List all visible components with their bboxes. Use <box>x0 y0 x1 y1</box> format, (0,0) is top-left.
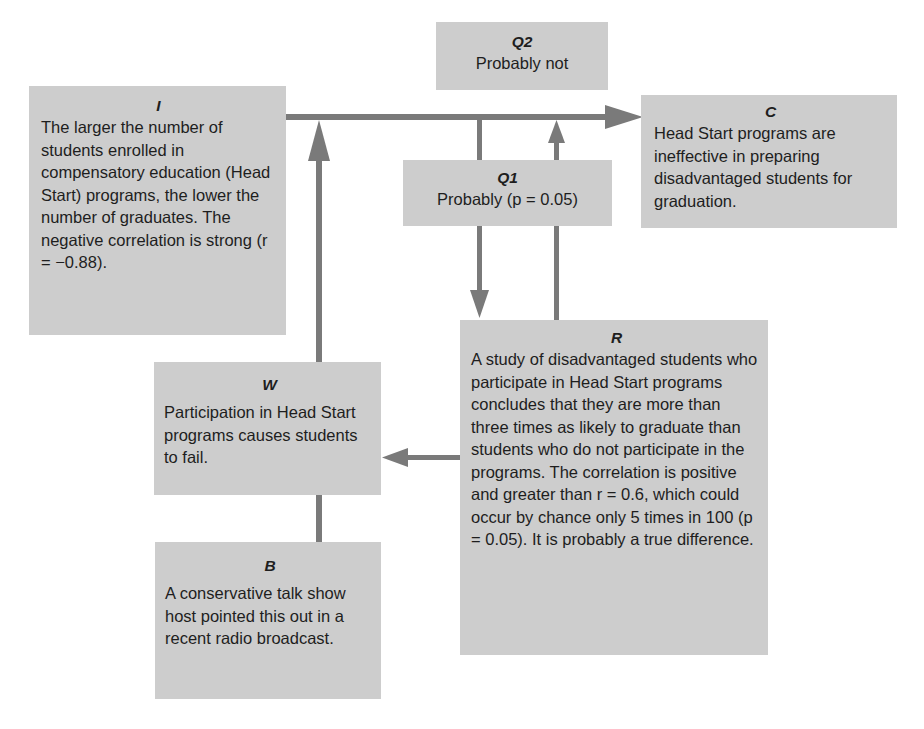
arrowhead-up-r-to-main-icon <box>548 120 565 143</box>
arrowhead-up-to-main-icon <box>308 120 330 161</box>
node-q1-text: Probably (p = 0.05) <box>405 188 610 211</box>
node-i-text: The larger the number of students enroll… <box>41 116 276 274</box>
r-to-w-line <box>405 455 460 460</box>
node-q2-label: Q2 <box>440 32 604 52</box>
node-i-label: I <box>41 96 276 116</box>
node-c-text: Head Start programs are ineffective in p… <box>654 122 887 212</box>
r-to-main-line <box>554 226 559 320</box>
arrowhead-left-to-w-icon <box>382 448 408 467</box>
node-b-label: B <box>165 556 375 576</box>
node-r-box: R A study of disadvantaged students who … <box>460 320 768 655</box>
node-w-label: W <box>164 375 375 395</box>
node-w-box: W Participation in Head Start programs c… <box>154 362 381 495</box>
node-r-label: R <box>471 328 762 348</box>
node-b-box: B A conservative talk show host pointed … <box>155 542 381 699</box>
b-to-w-line <box>316 495 322 542</box>
node-w-text: Participation in Head Start programs cau… <box>164 401 375 469</box>
node-q2-box: Q2 Probably not <box>436 22 608 90</box>
arrowhead-to-c-icon <box>605 105 643 129</box>
node-b-text: A conservative talk show host pointed th… <box>165 582 375 650</box>
node-q1-box: Q1 Probably (p = 0.05) <box>403 160 612 226</box>
i-to-c-line <box>286 114 608 120</box>
node-r-text: A study of disadvantaged students who pa… <box>471 348 762 551</box>
node-q2-text: Probably not <box>440 52 604 75</box>
node-i-box: I The larger the number of students enro… <box>29 86 286 335</box>
node-q1-label: Q1 <box>405 168 610 188</box>
node-c-box: C Head Start programs are ineffective in… <box>641 95 897 228</box>
main-to-q1-line <box>477 120 482 160</box>
arrowhead-down-to-r-icon <box>470 290 489 318</box>
w-to-main-line <box>316 158 322 362</box>
q1-to-r-line <box>477 226 482 292</box>
node-c-label: C <box>654 102 887 122</box>
